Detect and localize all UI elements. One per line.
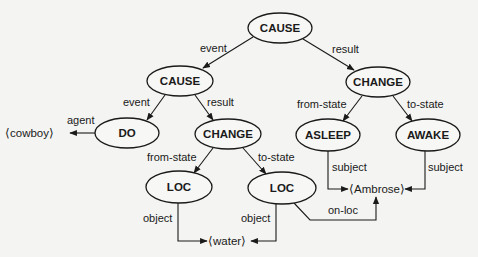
node-label: DO: [118, 127, 135, 139]
edge-label-loc-left-object: object: [143, 212, 172, 224]
node-label: CHANGE: [203, 128, 253, 140]
node-label: CHANGE: [353, 76, 403, 88]
conceptual-dependency-diagram: CAUSE CAUSE CHANGE DO CHANGE ASLEEP AWAK…: [0, 0, 478, 257]
edge-awake-subject: [405, 151, 425, 189]
edge-label-awake-subject: subject: [428, 161, 463, 173]
edge-mid-from-state: [194, 148, 213, 173]
node-awake: AWAKE: [396, 119, 460, 151]
edge-label-right-from-state: from-state: [297, 98, 347, 110]
edge-label-agent: agent: [67, 114, 95, 126]
node-label: AWAKE: [407, 129, 450, 141]
node-change-right: CHANGE: [346, 67, 410, 97]
leaf-cowboy: ⟨cowboy⟩: [5, 127, 54, 139]
node-label: LOC: [167, 181, 191, 193]
leaf-water: ⟨water⟩: [208, 235, 246, 247]
edge-loc-left-object: [178, 203, 207, 241]
node-cause-left: CAUSE: [147, 66, 213, 96]
edge-label-on-loc: on-loc: [328, 204, 358, 216]
edge-label-left-result: result: [207, 96, 234, 108]
node-loc-right: LOC: [248, 172, 316, 204]
node-label: CAUSE: [260, 22, 301, 34]
node-cause-top: CAUSE: [248, 13, 312, 43]
node-label: ASLEEP: [305, 129, 351, 141]
node-label: LOC: [270, 182, 294, 194]
edge-label-top-result: result: [332, 43, 359, 55]
edge-label-mid-to-state: to-state: [258, 151, 295, 163]
node-do: DO: [95, 118, 159, 148]
node-label: CAUSE: [160, 75, 201, 87]
edge-label-left-event: event: [123, 96, 150, 108]
edge-label-mid-from-state: from-state: [147, 151, 197, 163]
edge-label-top-event: event: [200, 42, 227, 54]
edge-label-loc-right-object: object: [241, 212, 270, 224]
node-change-mid: CHANGE: [195, 119, 261, 149]
node-asleep: ASLEEP: [296, 119, 360, 151]
edge-label-right-to-state: to-state: [407, 98, 444, 110]
node-loc-left: LOC: [146, 171, 212, 203]
edge-label-asleep-subject: subject: [332, 161, 367, 173]
leaf-ambrose: ⟨Ambrose⟩: [349, 183, 405, 195]
